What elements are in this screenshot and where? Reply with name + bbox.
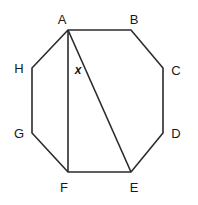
vertex-label-h: H — [14, 62, 23, 75]
vertex-label-c: C — [171, 64, 180, 77]
vertex-label-d: D — [171, 127, 180, 140]
vertex-label-f: F — [60, 181, 68, 194]
octagon-outline — [32, 30, 163, 172]
segment-ae — [68, 30, 131, 172]
vertex-label-e: E — [130, 181, 139, 194]
vertex-label-b: B — [130, 13, 139, 26]
vertex-label-g: G — [14, 127, 24, 140]
angle-label-x: x — [75, 64, 82, 76]
octagon-diagram-svg — [0, 0, 198, 205]
vertex-label-a: A — [58, 13, 67, 26]
octagon-figure: A B C D E F G H x — [0, 0, 198, 205]
